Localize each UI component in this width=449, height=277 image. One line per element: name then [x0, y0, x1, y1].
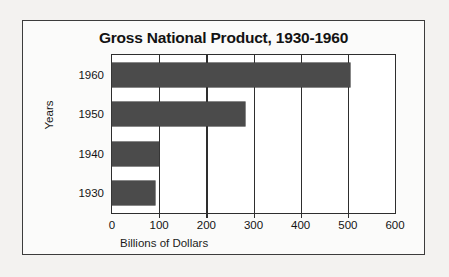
x-axis-tick-mark [348, 213, 349, 218]
x-axis-tick-mark [301, 213, 302, 218]
plot-area: 1960195019401930 0100200300400500600 Bil… [111, 54, 396, 214]
x-axis-tick-label: 0 [109, 219, 115, 231]
x-axis-title: Billions of Dollars [120, 237, 208, 249]
x-axis-tick-mark [254, 213, 255, 218]
x-axis-tick-label: 100 [150, 219, 169, 231]
x-axis-tick-label: 600 [385, 219, 404, 231]
bar-band [112, 55, 395, 95]
chart-title: Gross National Product, 1930-1960 [23, 29, 424, 47]
chart-figure-frame: Gross National Product, 1930-1960 Years … [22, 20, 425, 255]
x-axis-tick-mark [206, 213, 207, 218]
bar-band [112, 134, 395, 174]
bar [112, 102, 245, 126]
bar-band [112, 95, 395, 135]
bar [112, 181, 155, 205]
x-axis-tick-label: 400 [291, 219, 310, 231]
x-axis-tick-label: 200 [197, 219, 216, 231]
bar-band [112, 174, 395, 214]
y-axis-title: Years [43, 75, 55, 155]
bar [112, 142, 159, 166]
y-axis-tick-label: 1960 [78, 69, 104, 81]
x-axis-tick-label: 300 [244, 219, 263, 231]
bar [112, 63, 350, 87]
y-axis-tick-label: 1950 [78, 108, 104, 120]
x-axis-tick-label: 500 [338, 219, 357, 231]
y-axis-tick-label: 1940 [78, 148, 104, 160]
x-axis-tick-mark [159, 213, 160, 218]
y-axis-tick-label: 1930 [78, 187, 104, 199]
